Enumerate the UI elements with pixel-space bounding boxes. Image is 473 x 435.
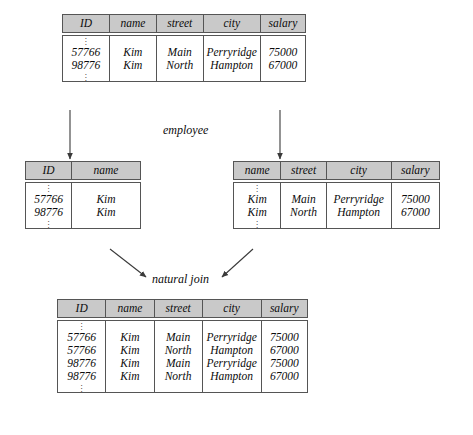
spacer-cell: [326, 183, 391, 193]
column-header-city: city: [203, 15, 260, 33]
cell-street: Main: [154, 331, 202, 344]
spacer-cell: [281, 219, 326, 229]
vertical-ellipsis-icon: ...: [63, 72, 110, 82]
spacer-cell: [202, 321, 261, 331]
cell-id: 57766: [58, 331, 106, 344]
cell-salary: 67000: [260, 59, 305, 72]
column-header-id: ID: [26, 162, 72, 180]
spacer-cell: [202, 383, 261, 393]
column-header-id: ID: [58, 300, 106, 318]
vertical-ellipsis-icon: ...: [63, 36, 110, 46]
vertical-ellipsis-icon: ...: [26, 183, 72, 193]
vertical-ellipsis-icon: ...: [58, 321, 106, 331]
table-header-row: ID name street city salary: [63, 15, 306, 33]
column-header-salary: salary: [391, 162, 439, 180]
cell-salary: 75000: [261, 331, 308, 344]
table-header-row: ID name street city salary: [58, 300, 308, 318]
column-header-street: street: [154, 300, 202, 318]
cell-street: North: [281, 206, 326, 219]
cell-name: Kim: [106, 331, 154, 344]
table-row: 98776 Kim North Hampton 67000: [63, 59, 306, 72]
table-row: 98776 Kim: [26, 206, 141, 219]
column-header-name: name: [106, 300, 154, 318]
spacer-cell: [106, 321, 154, 331]
spacer-cell: [72, 183, 141, 193]
ellipsis-row-bottom: ...: [234, 219, 440, 229]
ellipsis-row-top: ...: [58, 321, 308, 331]
ellipsis-row-bottom: ...: [63, 72, 306, 82]
projection-right-header: name street city salary: [233, 161, 440, 180]
projection-right-body: ... Kim Main Perryridge 75000 Kim North …: [233, 182, 440, 229]
column-header-city: city: [202, 300, 261, 318]
cell-city: Perryridge: [203, 46, 260, 59]
table-row: 57766 Kim Main Perryridge 75000: [58, 331, 308, 344]
table-row: 98776 Kim North Hampton 67000: [58, 370, 308, 383]
cell-city: Hampton: [326, 206, 391, 219]
ellipsis-row-top: ...: [234, 183, 440, 193]
spacer-cell: [156, 72, 203, 82]
cell-salary: 75000: [261, 357, 308, 370]
column-header-city: city: [326, 162, 391, 180]
ellipsis-row-top: ...: [63, 36, 306, 46]
cell-salary: 67000: [261, 370, 308, 383]
vertical-ellipsis-icon: ...: [58, 383, 106, 393]
table-row: 98776 Kim Main Perryridge 75000: [58, 357, 308, 370]
spacer-cell: [391, 219, 439, 229]
column-header-street: street: [281, 162, 326, 180]
projection-left-header: ID name: [25, 161, 141, 180]
employee-table-body: ... 57766 Kim Main Perryridge 75000 9877…: [62, 35, 306, 82]
projection-left-table: ID name ... 57766 Kim 98776 Kim ...: [25, 161, 141, 229]
cell-salary: 67000: [391, 206, 439, 219]
result-table-header: ID name street city salary: [57, 299, 308, 318]
spacer-cell: [281, 183, 326, 193]
cell-name: Kim: [106, 357, 154, 370]
column-header-name: name: [234, 162, 281, 180]
employee-table: ID name street city salary ... 57766 Kim…: [62, 14, 306, 82]
vertical-ellipsis-icon: ...: [234, 219, 281, 229]
cell-salary: 75000: [260, 46, 305, 59]
result-table: ID name street city salary ... 57766 Kim…: [57, 299, 308, 393]
table-header-row: ID name: [26, 162, 141, 180]
spacer-cell: [109, 36, 156, 46]
spacer-cell: [326, 219, 391, 229]
spacer-cell: [154, 383, 202, 393]
cell-city: Hampton: [202, 344, 261, 357]
cell-street: Main: [281, 193, 326, 206]
cell-name: Kim: [109, 59, 156, 72]
cell-id: 57766: [26, 193, 72, 206]
vertical-ellipsis-icon: ...: [26, 219, 72, 229]
cell-city: Hampton: [202, 370, 261, 383]
cell-street: Main: [154, 357, 202, 370]
spacer-cell: [106, 383, 154, 393]
cell-name: Kim: [106, 370, 154, 383]
cell-street: Main: [156, 46, 203, 59]
spacer-cell: [203, 72, 260, 82]
column-header-id: ID: [63, 15, 110, 33]
ellipsis-row-bottom: ...: [26, 219, 141, 229]
employee-table-header: ID name street city salary: [62, 14, 306, 33]
spacer-cell: [391, 183, 439, 193]
vertical-ellipsis-icon: ...: [234, 183, 281, 193]
cell-street: North: [154, 370, 202, 383]
spacer-cell: [203, 36, 260, 46]
table-header-row: name street city salary: [234, 162, 440, 180]
table-row: 57766 Kim: [26, 193, 141, 206]
result-table-body: ... 57766 Kim Main Perryridge 75000 5776…: [57, 320, 308, 393]
natural-join-caption: natural join: [152, 272, 209, 287]
cell-id: 98776: [58, 357, 106, 370]
spacer-cell: [260, 72, 305, 82]
cell-name: Kim: [106, 344, 154, 357]
table-row: Kim Main Perryridge 75000: [234, 193, 440, 206]
spacer-cell: [261, 383, 308, 393]
cell-street: North: [156, 59, 203, 72]
ellipsis-row-bottom: ...: [58, 383, 308, 393]
projection-left-body: ... 57766 Kim 98776 Kim ...: [25, 182, 141, 229]
ellipsis-row-top: ...: [26, 183, 141, 193]
arrow-right-projection-to-join: [222, 249, 253, 277]
cell-id: 57766: [63, 46, 110, 59]
spacer-cell: [154, 321, 202, 331]
column-header-name: name: [72, 162, 141, 180]
column-header-salary: salary: [260, 15, 305, 33]
cell-city: Perryridge: [202, 357, 261, 370]
diagram-canvas: ID name street city salary ... 57766 Kim…: [0, 0, 473, 435]
